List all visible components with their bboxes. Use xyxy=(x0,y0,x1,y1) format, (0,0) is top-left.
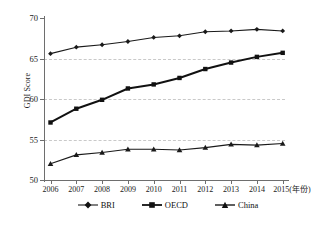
x-tick-label-2015: 2015(年份) xyxy=(273,186,310,194)
gridline-55 xyxy=(44,140,285,141)
x-tick-mark-2007 xyxy=(76,180,77,184)
legend-label-oecd: OECD xyxy=(165,201,188,210)
gridline-60 xyxy=(44,99,285,100)
x-tick-label-2009: 2009 xyxy=(120,186,136,194)
y-tick-mark-70 xyxy=(40,18,45,19)
x-tick-mark-2014 xyxy=(257,180,258,184)
x-tick-label-2006: 2006 xyxy=(43,186,59,194)
x-tick-mark-2008 xyxy=(102,180,103,184)
gridline-65 xyxy=(44,59,285,60)
legend-item-china[interactable]: China xyxy=(214,200,258,210)
legend-item-bri[interactable]: BRI xyxy=(77,200,115,210)
y-tick-mark-60 xyxy=(40,99,45,100)
y-tick-label-55: 55 xyxy=(30,136,39,145)
chart-figure: 70 65 60 55 50 GDI Score 2006 2007 2008 … xyxy=(0,0,335,228)
x-tick-mark-2006 xyxy=(51,180,52,184)
legend-label-china: China xyxy=(238,201,258,210)
x-tick-label-2013: 2013 xyxy=(223,186,239,194)
y-tick-label-70: 70 xyxy=(30,14,39,23)
x-tick-label-2014: 2014 xyxy=(249,186,265,194)
x-tick-mark-2010 xyxy=(154,180,155,184)
y-axis-title: GDI Score xyxy=(23,56,32,126)
x-axis-line xyxy=(44,180,289,181)
plot-area xyxy=(44,18,285,180)
square-marker-icon xyxy=(141,200,163,210)
legend-label-bri: BRI xyxy=(101,201,115,210)
x-tick-mark-2013 xyxy=(231,180,232,184)
y-tick-mark-55 xyxy=(40,140,45,141)
x-tick-label-2011: 2011 xyxy=(172,186,188,194)
x-tick-mark-2009 xyxy=(128,180,129,184)
diamond-marker-icon xyxy=(77,200,99,210)
y-tick-label-50: 50 xyxy=(30,176,39,185)
x-tick-mark-2015 xyxy=(283,180,284,184)
triangle-marker-icon xyxy=(214,200,236,210)
x-tick-label-2008: 2008 xyxy=(94,186,110,194)
chart-legend: BRI OECD China xyxy=(0,200,335,210)
x-tick-label-2010: 2010 xyxy=(146,186,162,194)
legend-item-oecd[interactable]: OECD xyxy=(141,200,188,210)
x-tick-mark-2011 xyxy=(180,180,181,184)
x-tick-mark-2012 xyxy=(205,180,206,184)
y-tick-mark-65 xyxy=(40,59,45,60)
x-tick-label-2012: 2012 xyxy=(197,186,213,194)
y-tick-mark-50 xyxy=(40,180,45,181)
x-tick-label-2007: 2007 xyxy=(68,186,84,194)
